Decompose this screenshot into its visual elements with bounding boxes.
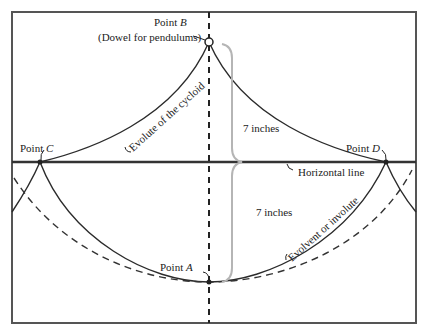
upper-distance-label: 7 inches <box>243 122 279 134</box>
horizontal-line-leader <box>287 164 293 170</box>
point-a-marker <box>207 280 212 285</box>
point-a-label: Point A <box>160 261 193 273</box>
point-d-label: Point D <box>346 142 380 154</box>
point-c-marker <box>38 160 43 165</box>
cycloid-pendulum-diagram: Point B (Dowel for pendulums) Point C Po… <box>0 0 426 332</box>
point-c-label: Point C <box>20 142 54 154</box>
circular-arc-dashed <box>14 170 412 282</box>
evolute-label: Evolute of the cycloid <box>126 79 207 153</box>
point-b-label: Point B <box>154 16 187 28</box>
point-d-leader <box>382 150 386 160</box>
lower-distance-label: 7 inches <box>256 206 292 218</box>
evolvent-label: Evolvent or involute <box>285 194 360 264</box>
point-d-marker <box>384 160 389 165</box>
right-outer-arc <box>386 162 416 212</box>
point-b-dowel <box>205 38 213 46</box>
horizontal-line-label: Horizontal line <box>298 166 364 178</box>
left-outer-arc <box>12 162 40 212</box>
dowel-label: (Dowel for pendulums) <box>98 31 202 44</box>
